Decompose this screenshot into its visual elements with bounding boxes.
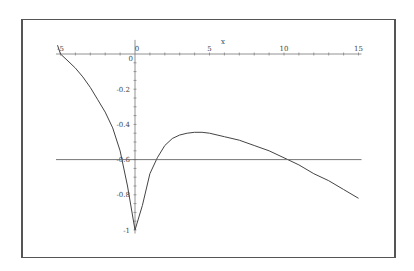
x-tick-label: 10 [280, 45, 289, 53]
origin-label: 0 [129, 55, 133, 63]
y-tick-label: -1 [123, 227, 130, 235]
y-tick-label: -0.8 [117, 191, 131, 199]
x-tick-label: 5 [207, 45, 211, 53]
x-tick-label: 0 [135, 45, 139, 53]
x-axis-label: x [221, 38, 225, 46]
y-tick-label: -0.2 [117, 86, 131, 94]
plot-canvas: -5051015x-0.2-0.4-0.6-0.8-10 [0, 0, 414, 271]
x-tick-label: 15 [354, 45, 363, 53]
y-tick-label: -0.6 [117, 156, 131, 164]
curve-series [58, 45, 359, 230]
y-tick-label: -0.4 [117, 121, 131, 129]
